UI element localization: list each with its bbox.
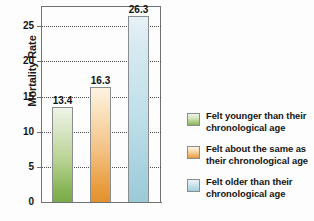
legend-label-line1: Felt younger than their: [206, 110, 306, 121]
legend-item-felt-older[interactable]: Felt older than theirchronological age: [187, 176, 314, 203]
legend-label-line2: their chronological age: [206, 155, 308, 166]
bar-felt-same[interactable]: [90, 87, 111, 202]
legend-swatch-green-icon: [187, 113, 200, 126]
y-tick-label-15: 15: [8, 91, 34, 102]
legend-swatch-blue-icon: [187, 179, 200, 192]
x-axis-line: [41, 202, 162, 203]
y-tick-label-0: 0: [8, 196, 34, 207]
legend-swatch-orange-icon: [187, 146, 200, 159]
legend-label-line1: Felt older than their: [206, 176, 292, 187]
y-tick-label-10: 10: [8, 126, 34, 137]
legend-label-line2: chronological age: [206, 122, 285, 133]
y-tick-mark-5: [37, 167, 41, 168]
chart-figure: Mortality Rate 25 20 15 10 5 0 13.4 16.3…: [0, 0, 314, 221]
legend-item-felt-younger[interactable]: Felt younger than theirchronological age: [187, 110, 314, 137]
bar-value-label-1: 13.4: [46, 95, 79, 106]
bar-felt-older[interactable]: [128, 16, 149, 202]
legend: Felt younger than theirchronological age…: [187, 110, 314, 209]
legend-label-felt-younger: Felt younger than theirchronological age: [206, 110, 314, 135]
legend-label-felt-same: Felt about the same astheir chronologica…: [206, 143, 314, 168]
y-tick-mark-20: [37, 61, 41, 62]
y-tick-label-20: 20: [8, 55, 34, 66]
y-tick-mark-25: [37, 26, 41, 27]
y-tick-mark-10: [37, 132, 41, 133]
legend-label-line2: chronological age: [206, 188, 285, 199]
bar-value-label-3: 26.3: [122, 4, 155, 15]
y-tick-label-25: 25: [8, 20, 34, 31]
bar-value-label-2: 16.3: [84, 75, 117, 86]
legend-label-felt-older: Felt older than theirchronological age: [206, 176, 314, 201]
legend-label-line1: Felt about the same as: [206, 143, 306, 154]
bar-felt-younger[interactable]: [52, 107, 73, 202]
y-tick-mark-15: [37, 97, 41, 98]
legend-item-felt-same[interactable]: Felt about the same astheir chronologica…: [187, 143, 314, 170]
y-tick-label-5: 5: [8, 161, 34, 172]
